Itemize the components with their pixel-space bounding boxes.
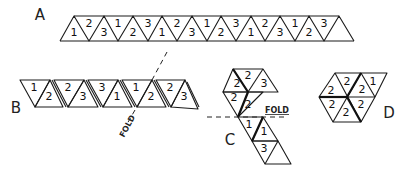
triangle-number: 2 xyxy=(65,81,72,94)
triangle-number: 3 xyxy=(101,26,108,39)
triangle-number: 2 xyxy=(86,17,93,30)
triangle-number: 1 xyxy=(248,26,255,39)
triangle-number: 1 xyxy=(261,125,268,138)
triangle-number: 3 xyxy=(261,142,268,155)
triangle-number: 2 xyxy=(344,75,351,88)
triangle-number: 2 xyxy=(262,17,269,30)
triangle-number: 2 xyxy=(245,69,252,82)
triangle-number: 2 xyxy=(167,81,174,94)
triangle-number: 3 xyxy=(181,90,188,103)
triangle-number: 1 xyxy=(159,26,166,39)
triangle-number: 2 xyxy=(328,84,335,97)
triangle-number: 1 xyxy=(114,90,121,103)
panel-d-label: D xyxy=(383,104,395,122)
triangle-number: 2 xyxy=(329,98,336,111)
panel-c: C 2 2 3 2 2 1 1 3 xyxy=(207,69,291,164)
triangle-number: 1 xyxy=(246,118,253,131)
triangle-number: 3 xyxy=(145,17,152,30)
panel-a-label: A xyxy=(35,6,46,24)
triangle-number: 2 xyxy=(46,90,53,103)
triangle-number: 3 xyxy=(277,26,284,39)
fold-label: FOLD xyxy=(118,113,137,139)
panel-a: A 1 2 3 1 2 3 1 2 3 1 2 3 1 2 3 1 2 3 xyxy=(35,6,354,42)
triangle-number: 3 xyxy=(80,90,87,103)
hexaflexagon-folding-diagram: A 1 2 3 1 2 3 1 2 3 1 2 3 1 2 3 1 2 3 xyxy=(0,0,402,174)
panel-c-label: C xyxy=(225,131,235,149)
triangle-number: 2 xyxy=(343,106,350,119)
triangle-number: 3 xyxy=(99,81,106,94)
triangle-number: 3 xyxy=(233,17,240,30)
triangle-number: 1 xyxy=(370,75,377,88)
panel-d: D 2 2 2 1 2 2 2 xyxy=(319,73,395,122)
triangle-number: 2 xyxy=(130,26,137,39)
triangle-number: 1 xyxy=(71,26,78,39)
triangle-number: 2 xyxy=(218,26,225,39)
triangle-number: 2 xyxy=(148,90,155,103)
triangle-number: 3 xyxy=(261,77,268,90)
triangle-number: 2 xyxy=(306,26,313,39)
triangle-number: 2 xyxy=(359,83,366,96)
triangle-number: 1 xyxy=(292,17,299,30)
triangle-number: 3 xyxy=(189,26,196,39)
panel-c-numbers: 2 2 3 2 2 1 1 3 xyxy=(231,69,268,155)
triangle-number: 3 xyxy=(321,17,328,30)
triangle-number: 1 xyxy=(204,17,211,30)
triangle-number: 2 xyxy=(231,91,238,104)
triangle-number: 1 xyxy=(115,17,122,30)
fold-label: FOLD xyxy=(265,106,289,115)
triangle-number: 1 xyxy=(133,81,140,94)
panel-b-label: B xyxy=(11,99,21,117)
triangle-number: 1 xyxy=(31,81,38,94)
panel-b: B 1 2 2 3 3 xyxy=(11,52,199,139)
triangle-number: 2 xyxy=(174,17,181,30)
fold-line xyxy=(152,52,167,80)
triangle-number: 2 xyxy=(245,98,252,111)
triangle-number: 2 xyxy=(358,98,365,111)
triangle-number: 2 xyxy=(234,77,241,90)
